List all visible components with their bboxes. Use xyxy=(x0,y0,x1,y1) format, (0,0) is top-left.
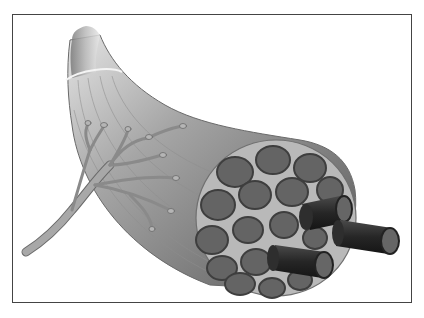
muscle-fascicle-illustration xyxy=(0,0,424,318)
cross-section xyxy=(196,140,399,298)
